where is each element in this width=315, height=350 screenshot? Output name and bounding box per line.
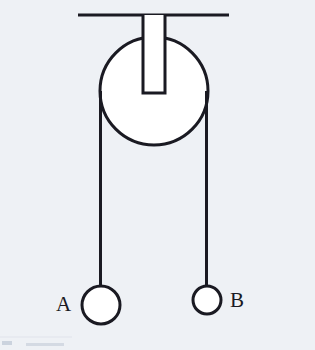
mass-a-ball [82, 286, 120, 324]
mass-b-ball [193, 286, 221, 314]
support-bracket [143, 15, 165, 93]
mass-a-label: A [56, 294, 71, 315]
scan-artifact-smudge [0, 336, 72, 338]
pulley-diagram: A B [0, 0, 315, 350]
scan-artifact-bar [26, 343, 64, 346]
scan-artifact-tick [2, 341, 12, 345]
pulley-diagram-canvas [0, 0, 315, 350]
mass-b-label: B [230, 290, 244, 311]
